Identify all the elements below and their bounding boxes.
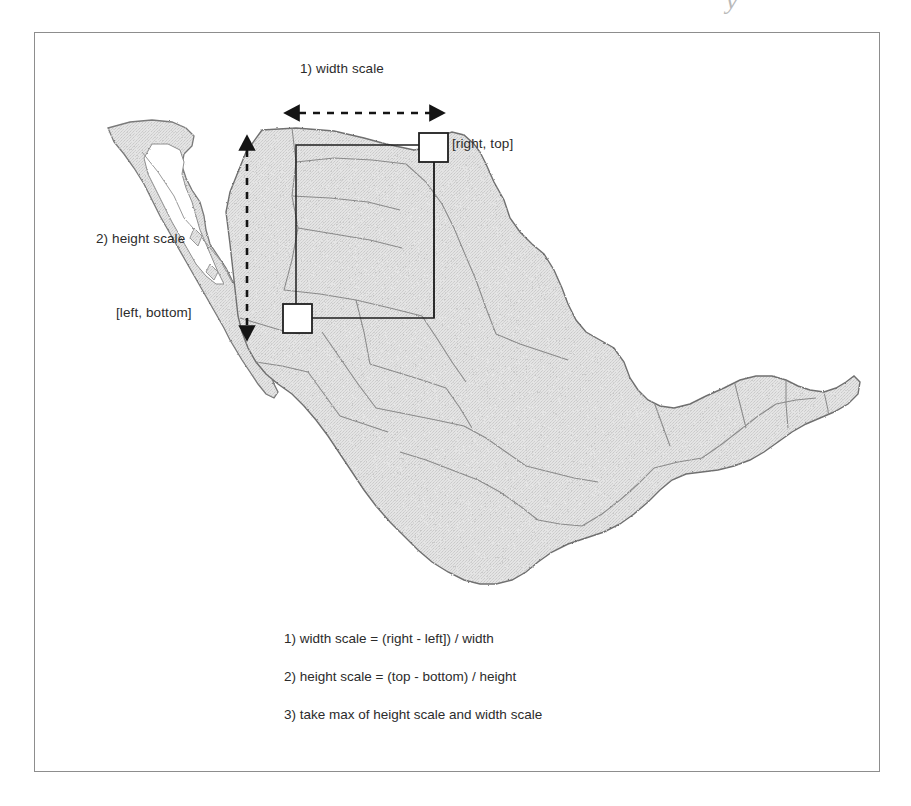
formula-line-3: 3) take max of height scale and width sc…: [284, 707, 724, 722]
formula-line-2: 2) height scale = (top - bottom) / heigh…: [284, 669, 724, 684]
selection-rectangle[interactable]: [296, 145, 434, 318]
corner-label-left-bottom: [left, bottom]: [116, 305, 192, 320]
height-scale-annotation: 2) height scale: [96, 231, 185, 246]
figure-page: y: [0, 0, 911, 806]
corner-label-right-top: [right, top]: [452, 136, 513, 151]
handle-top-right[interactable]: [419, 133, 448, 162]
handle-bottom-left[interactable]: [283, 304, 312, 333]
width-scale-annotation: 1) width scale: [300, 61, 384, 76]
formula-list: 1) width scale = (right - left]) / width…: [284, 631, 724, 722]
formula-line-1: 1) width scale = (right - left]) / width: [284, 631, 724, 646]
